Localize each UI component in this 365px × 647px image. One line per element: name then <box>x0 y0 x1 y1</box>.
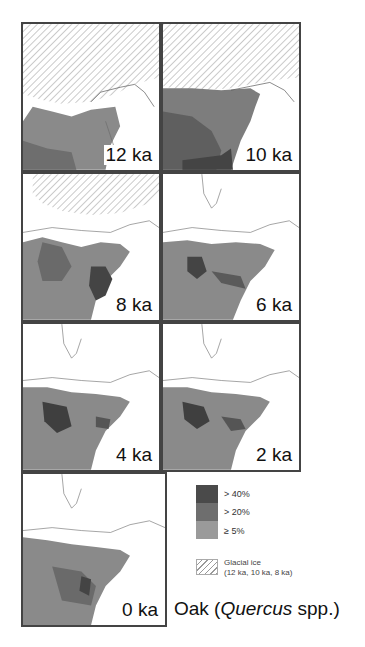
figure-title: Oak (Quercus spp.) <box>174 598 340 620</box>
title-prefix: Oak ( <box>174 598 220 619</box>
map-panel-0ka: 0 ka <box>21 472 167 627</box>
map-panel-2ka: 2 ka <box>161 322 301 472</box>
legend-label-20: > 20% <box>224 507 250 517</box>
legend-label-5: ≥ 5% <box>224 526 244 536</box>
map-panel-10ka: 10 ka <box>161 22 301 172</box>
panel-label: 6 ka <box>254 295 294 315</box>
panel-label: 2 ka <box>254 445 294 465</box>
panel-label: 12 ka <box>104 145 154 165</box>
glacial-ice-label: Glacial ice (12 ka, 10 ka, 8 ka) <box>224 558 292 578</box>
panel-label: 10 ka <box>244 145 294 165</box>
legend-label-40: > 40% <box>224 489 250 499</box>
legend-swatch-5 <box>196 521 218 539</box>
glacial-ice-swatch <box>196 559 218 575</box>
title-suffix: spp.) <box>292 598 340 619</box>
legend-swatch-20 <box>196 503 218 521</box>
map-panel-6ka: 6 ka <box>161 172 301 322</box>
title-genus: Quercus <box>220 598 292 619</box>
ice-label-line1: Glacial ice <box>224 558 292 568</box>
panel-label: 4 ka <box>114 445 154 465</box>
map-panel-8ka: 8 ka <box>21 172 161 322</box>
ice-label-line2: (12 ka, 10 ka, 8 ka) <box>224 568 292 578</box>
panel-label: 0 ka <box>120 600 160 620</box>
panel-label: 8 ka <box>114 295 154 315</box>
map-panel-4ka: 4 ka <box>21 322 161 472</box>
map-panel-12ka: 12 ka <box>21 22 161 172</box>
legend-swatch-40 <box>196 485 218 503</box>
